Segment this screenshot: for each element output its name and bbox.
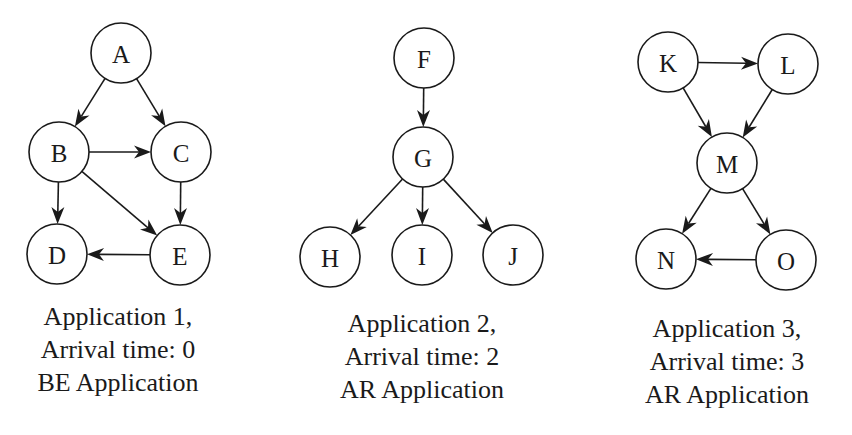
application-1-nodes: ABCDE — [27, 23, 211, 285]
edge-K-to-M — [683, 88, 712, 137]
caption-title: Application 3, — [607, 312, 847, 345]
arrowhead-icon — [140, 220, 157, 236]
edge-line — [443, 179, 484, 224]
application-3-nodes: KLMNO — [636, 32, 818, 290]
node-G: G — [393, 127, 453, 187]
edge-G-to-H — [350, 179, 402, 235]
caption-app-type: AR Application — [302, 373, 542, 406]
edge-C-to-E — [174, 182, 187, 225]
node-label: J — [508, 243, 518, 270]
node-J: J — [483, 225, 543, 285]
edge-M-to-O — [743, 189, 771, 235]
node-K: K — [638, 32, 698, 92]
caption-application-1: Application 1, Arrival time: 0 BE Applic… — [0, 300, 238, 399]
node-label: A — [112, 41, 130, 68]
edge-O-to-N — [696, 253, 756, 266]
edge-line — [689, 188, 711, 223]
edge-A-to-B — [75, 78, 105, 126]
node-label: F — [417, 46, 431, 73]
node-label: H — [321, 245, 339, 272]
node-H: H — [300, 227, 360, 287]
node-M: M — [697, 133, 757, 193]
node-label: I — [418, 243, 426, 270]
edge-line — [81, 78, 105, 116]
arrowhead-icon — [756, 217, 770, 235]
node-label: D — [48, 242, 66, 269]
edge-F-to-G — [417, 88, 430, 127]
edge-line — [683, 88, 706, 127]
caption-app-type: AR Application — [607, 378, 847, 411]
node-C: C — [151, 122, 211, 182]
edge-K-to-L — [698, 57, 758, 70]
edge-line — [137, 79, 160, 116]
arrowhead-icon — [151, 108, 165, 126]
edge-G-to-I — [416, 187, 429, 225]
arrowhead-icon — [75, 109, 90, 127]
edge-line — [749, 90, 772, 128]
caption-arrival-time: Arrival time: 2 — [302, 340, 542, 373]
caption-application-3: Application 3, Arrival time: 3 AR Applic… — [607, 312, 847, 411]
node-label: O — [777, 248, 795, 275]
node-B: B — [29, 122, 89, 182]
edge-G-to-J — [443, 179, 492, 233]
caption-arrival-time: Arrival time: 3 — [607, 345, 847, 378]
node-D: D — [27, 224, 87, 284]
edge-line — [82, 171, 148, 227]
caption-application-2: Application 2, Arrival time: 2 AR Applic… — [302, 307, 542, 406]
arrowhead-icon — [698, 119, 712, 137]
node-label: E — [172, 243, 187, 270]
node-O: O — [756, 230, 816, 290]
caption-app-type: BE Application — [0, 366, 238, 399]
caption-title: Application 1, — [0, 300, 238, 333]
node-label: K — [659, 50, 677, 77]
node-label: B — [51, 140, 68, 167]
caption-title: Application 2, — [302, 307, 542, 340]
node-label: M — [716, 151, 738, 178]
node-label: G — [414, 145, 432, 172]
edge-line — [698, 62, 746, 63]
application-2-nodes: FGHIJ — [300, 28, 543, 287]
edge-line — [58, 182, 59, 212]
node-E: E — [150, 225, 210, 285]
node-F: F — [394, 28, 454, 88]
edge-B-to-D — [51, 182, 64, 224]
node-label: C — [173, 140, 190, 167]
edge-B-to-C — [89, 146, 151, 159]
arrowhead-icon — [682, 216, 697, 234]
node-I: I — [392, 225, 452, 285]
node-A: A — [91, 23, 151, 83]
edge-A-to-C — [137, 79, 166, 127]
caption-arrival-time: Arrival time: 0 — [0, 333, 238, 366]
node-label: N — [657, 247, 675, 274]
edge-E-to-D — [87, 248, 150, 261]
edge-line — [743, 189, 765, 224]
node-L: L — [758, 34, 818, 94]
edge-line — [359, 179, 403, 226]
edge-B-to-E — [82, 171, 157, 235]
arrowhead-icon — [743, 120, 758, 138]
edge-L-to-M — [743, 90, 773, 138]
node-N: N — [636, 229, 696, 289]
edge-M-to-N — [682, 188, 711, 233]
node-label: L — [780, 52, 795, 79]
